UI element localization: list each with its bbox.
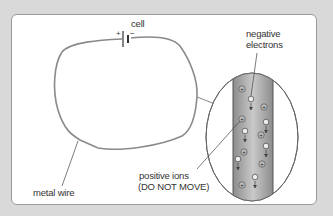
- wire-leader: [62, 141, 78, 186]
- metal-wire-loop: [55, 37, 198, 149]
- cell-minus-terminal: −: [130, 29, 134, 39]
- svg-text:+: +: [260, 161, 264, 167]
- svg-text:+: +: [262, 104, 266, 110]
- svg-text:+: +: [242, 149, 246, 155]
- svg-text:+: +: [259, 132, 263, 138]
- wire-cross-section: [233, 70, 273, 210]
- positive-ions-label-line2: (DO NOT MOVE): [138, 182, 209, 192]
- negative-electrons-label-line1: negative: [246, 29, 280, 39]
- svg-text:+: +: [240, 86, 244, 92]
- positive-ions-label-line1: positive ions: [139, 171, 189, 181]
- negative-electrons-label-line2: electrons: [246, 40, 283, 50]
- svg-text:+: +: [240, 116, 244, 122]
- svg-text:+: +: [240, 182, 244, 188]
- metal-wire-label: metal wire: [33, 188, 74, 198]
- cell-plus-terminal: +: [116, 29, 120, 39]
- cell-label: cell: [131, 19, 144, 29]
